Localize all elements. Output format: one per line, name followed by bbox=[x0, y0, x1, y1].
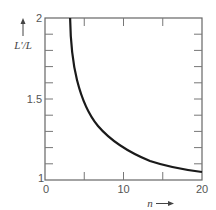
x-tick-label-10: 10 bbox=[117, 183, 129, 195]
y-axis-label: L'/L bbox=[13, 39, 32, 51]
y-axis-arrow-icon bbox=[21, 18, 26, 36]
x-axis-label: n bbox=[147, 197, 153, 209]
y-tick-label-1-5: 1.5 bbox=[27, 93, 42, 105]
x-tick-label-0: 0 bbox=[43, 183, 49, 195]
chart: 2 1.5 1 0 10 20 L'/L n bbox=[0, 0, 216, 210]
y-tick-label-2: 2 bbox=[36, 12, 42, 24]
x-tick-label-20: 20 bbox=[196, 183, 208, 195]
data-curve bbox=[70, 18, 202, 172]
x-ticks bbox=[84, 18, 163, 180]
plot-frame bbox=[45, 18, 202, 180]
x-axis-arrow-icon bbox=[156, 201, 174, 206]
y-ticks-right bbox=[194, 34, 202, 164]
y-ticks-left bbox=[45, 34, 53, 164]
